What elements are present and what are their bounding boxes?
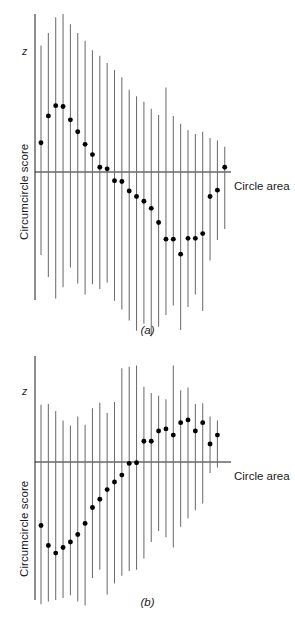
data-point	[186, 417, 191, 422]
data-point	[178, 420, 183, 425]
data-point	[141, 199, 146, 204]
data-point	[119, 473, 124, 478]
data-point	[208, 194, 213, 199]
panel-b-y-axis-label: Circumcircle score	[18, 481, 30, 577]
data-point	[208, 442, 213, 447]
data-point	[171, 433, 176, 438]
panel-b-tag: (b)	[0, 596, 295, 608]
data-point	[68, 117, 73, 122]
data-point	[156, 429, 161, 434]
data-point	[53, 103, 58, 108]
panel-a-plot	[0, 0, 295, 340]
data-point	[141, 439, 146, 444]
data-point	[97, 165, 102, 170]
data-point	[193, 236, 198, 241]
data-point	[46, 543, 51, 548]
data-point	[75, 129, 80, 134]
data-point	[83, 521, 88, 526]
data-point	[112, 178, 117, 183]
data-point	[127, 461, 132, 466]
data-point	[215, 188, 220, 193]
figure-circumcircle-score: Circumcircle score z Circle area (a) Cir…	[0, 0, 295, 617]
data-point	[83, 142, 88, 147]
data-point	[53, 551, 58, 556]
data-point	[164, 426, 169, 431]
data-point	[119, 179, 124, 184]
data-point	[39, 523, 44, 528]
data-point	[105, 166, 110, 171]
data-point	[75, 532, 80, 537]
data-point	[134, 460, 139, 465]
data-point	[90, 152, 95, 157]
data-point	[200, 420, 205, 425]
data-point	[186, 236, 191, 241]
data-point	[171, 237, 176, 242]
data-point	[61, 545, 66, 550]
data-point	[222, 165, 227, 170]
panel-a-z-marker: z	[22, 45, 27, 57]
data-point	[127, 189, 132, 194]
data-point	[134, 194, 139, 199]
panel-b-x-axis-label: Circle area	[234, 470, 290, 482]
data-point	[105, 487, 110, 492]
data-point	[61, 104, 66, 109]
data-point	[215, 433, 220, 438]
data-point	[112, 480, 117, 485]
panel-a	[0, 0, 295, 340]
panel-a-tag: (a)	[0, 324, 295, 336]
data-point	[90, 505, 95, 510]
data-point	[149, 206, 154, 211]
data-point	[39, 140, 44, 145]
data-point	[97, 497, 102, 502]
data-point	[193, 429, 198, 434]
data-point	[200, 231, 205, 236]
data-point	[164, 237, 169, 242]
panel-b-z-marker: z	[22, 385, 27, 397]
panel-a-x-axis-label: Circle area	[234, 180, 290, 192]
data-point	[156, 220, 161, 225]
data-point	[46, 113, 51, 118]
panel-a-y-axis-label: Circumcircle score	[18, 144, 30, 240]
data-point	[178, 252, 183, 257]
data-point	[149, 439, 154, 444]
data-point	[68, 540, 73, 545]
